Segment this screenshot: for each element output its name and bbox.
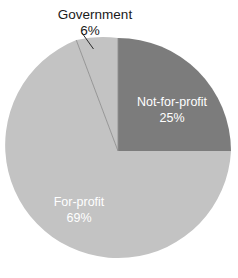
government-label-value: 6% — [80, 23, 100, 38]
for-profit-label-name: For-profit — [54, 195, 105, 209]
not-for-profit-label-value: 25% — [159, 111, 184, 125]
for-profit-label-value: 69% — [66, 211, 91, 225]
pie-chart-canvas: Government 6% Not-for-profit 25% For-pro… — [0, 0, 238, 278]
not-for-profit-label-name: Not-for-profit — [137, 95, 208, 109]
pie-chart-figure: Government 6% Not-for-profit 25% For-pro… — [0, 0, 238, 278]
government-label-name: Government — [58, 7, 133, 22]
